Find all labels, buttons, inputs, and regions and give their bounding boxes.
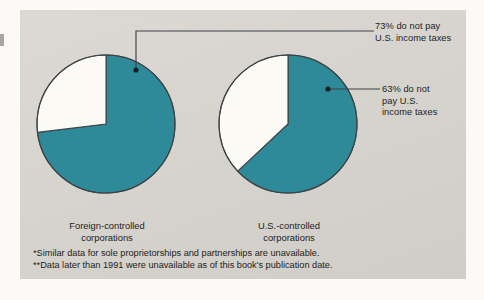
footnotes-block: *Similar data for sole proprietorships a… [33,247,453,272]
footnote-1: *Similar data for sole proprietorships a… [33,247,453,259]
pie-left [37,55,175,193]
pie-left-slice-white [37,55,106,132]
footnote-2: **Data later than 1991 were unavailable … [33,259,453,271]
leader-dot-73 [133,67,138,72]
leader-dot-63 [325,86,330,91]
pie-right [219,55,357,193]
pie-caption-foreign-controlled: Foreign-controlled corporations [36,220,178,243]
callout-label-63: 63% do not pay U.S. income taxes [382,84,480,119]
page-background: 73% do not pay U.S. income taxes 63% do … [0,0,484,300]
pie-caption-us-controlled: U.S.-controlled corporations [218,220,360,243]
callout-label-73: 73% do not pay U.S. income taxes [375,21,479,44]
